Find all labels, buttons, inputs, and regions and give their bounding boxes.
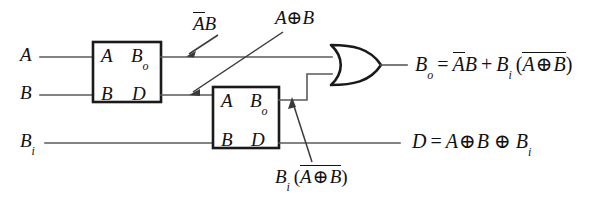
block1-port-in-a: A	[101, 46, 113, 65]
block1-port-in-b: B	[101, 84, 113, 103]
input-label-bi: Bi	[20, 131, 35, 154]
arrowhead-a-xor-b	[189, 89, 200, 96]
figure-canvas: A B Bi A B Bo D A B Bo D AB A⊕B Bi (A⊕B)…	[0, 0, 615, 200]
block1-port-out-d: D	[132, 84, 146, 103]
or-gate[interactable]	[331, 45, 381, 85]
block1-port-out-bo: Bo	[131, 46, 149, 69]
leader-line-a-bar-b	[189, 35, 218, 54]
leader-line-a-xor-b	[193, 32, 283, 92]
block2-port-in-b: B	[221, 130, 233, 149]
annotation-a-xor-b: A⊕B	[275, 8, 314, 27]
output-equation-difference: D = A⊕B ⊕ Bi	[412, 131, 531, 155]
leader-line-bi-a-xor-b	[293, 103, 312, 162]
block2-port-out-bo: Bo	[250, 91, 268, 114]
wire-block2-bo-to-or	[279, 74, 332, 100]
block2-port-in-a: A	[221, 91, 233, 110]
annotation-a-bar-b: AB	[193, 12, 216, 33]
block2-port-out-d: D	[251, 130, 265, 149]
arrowhead-bi-a-xor-b	[288, 97, 296, 109]
input-label-a: A	[20, 45, 32, 64]
input-label-b: B	[20, 83, 32, 102]
annotation-bi-a-xor-b: Bi (A⊕B)	[275, 165, 348, 190]
output-equation-borrow: Bo = AB + Bi (A⊕B)	[415, 52, 572, 78]
